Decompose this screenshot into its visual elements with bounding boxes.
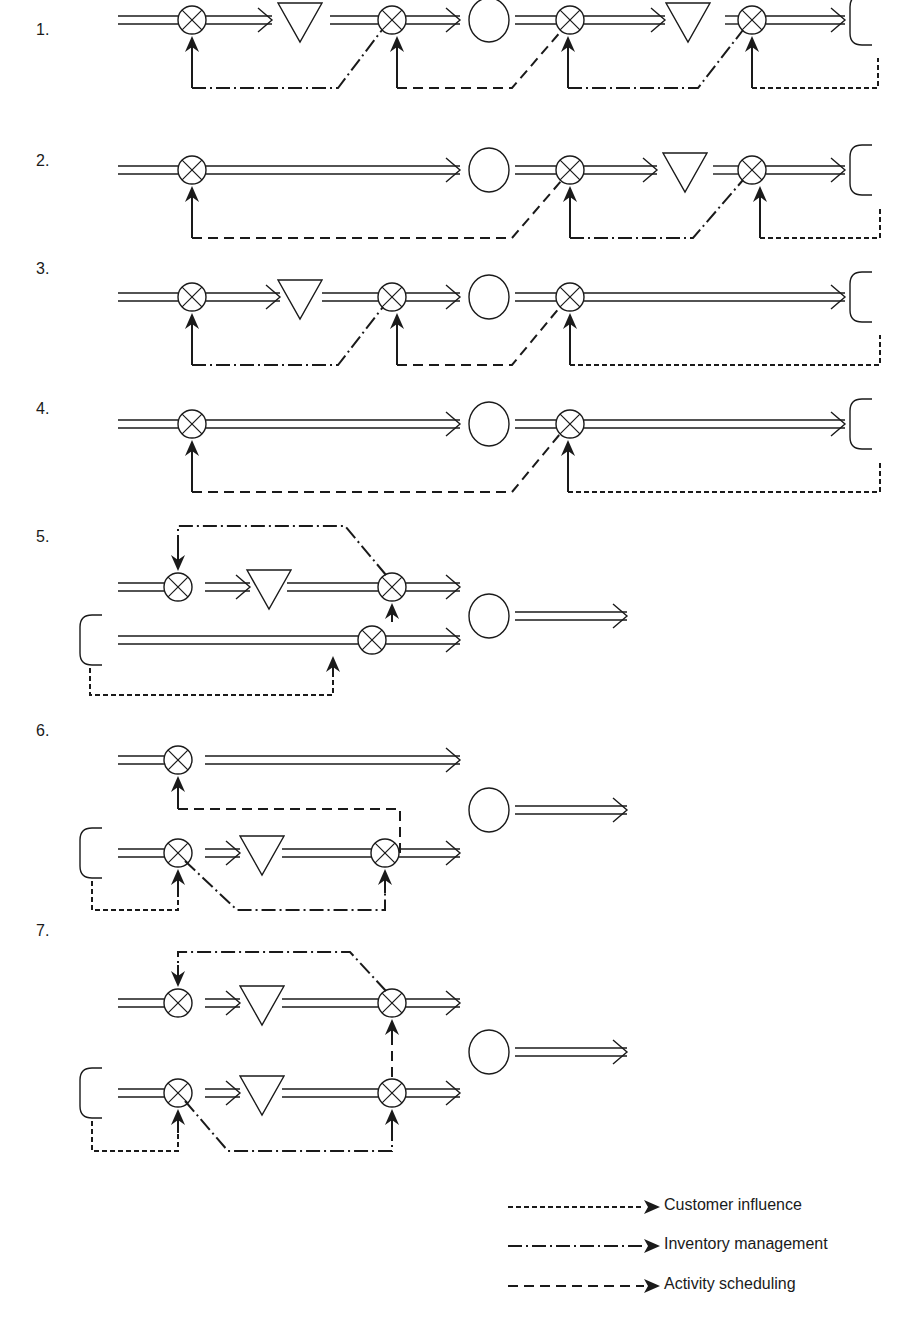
flow-arrowhead-icon — [446, 748, 460, 772]
source-sink-bracket-icon — [850, 0, 872, 45]
legend-label: Customer influence — [664, 1196, 802, 1214]
row-number-label: 1. — [36, 21, 49, 39]
legend-item-customer — [508, 1200, 660, 1214]
activity-circle-icon — [469, 402, 509, 446]
signal-line-customer — [568, 462, 880, 492]
flow-arrowhead-icon — [831, 158, 845, 182]
inventory-triangle-icon — [240, 986, 284, 1025]
source-sink-bracket-icon — [850, 145, 872, 195]
control-point-icon — [556, 6, 584, 34]
control-point-icon — [178, 156, 206, 184]
control-point-icon — [358, 626, 386, 654]
control-point-icon — [378, 1079, 406, 1107]
flow-arrowhead-icon — [446, 841, 460, 865]
flow-arrowhead-icon — [226, 991, 240, 1015]
control-point-icon — [164, 989, 192, 1017]
signal-line-activity — [178, 795, 400, 853]
flow-arrowhead-icon — [446, 628, 460, 652]
control-point-icon — [378, 989, 406, 1017]
control-point-icon — [178, 410, 206, 438]
row-number-label: 2. — [36, 152, 49, 170]
signal-line-inventory — [192, 307, 383, 365]
control-point-icon — [378, 573, 406, 601]
flow-arrowhead-icon — [226, 1081, 240, 1105]
arrow-right-icon — [644, 1200, 660, 1214]
activity-circle-icon — [469, 788, 509, 832]
legend-label: Inventory management — [664, 1235, 828, 1253]
diagram-row-2 — [118, 145, 880, 238]
signal-line-inventory — [178, 526, 386, 575]
flow-diagram — [0, 0, 915, 1329]
flow-arrowhead-icon — [266, 285, 280, 309]
activity-circle-icon — [469, 1030, 509, 1074]
activity-circle-icon — [469, 594, 509, 638]
flow-arrowhead-icon — [258, 8, 272, 32]
signal-line-inventory — [185, 1101, 392, 1151]
signal-line-customer — [90, 662, 333, 695]
control-point-icon — [164, 746, 192, 774]
diagram-row-3 — [118, 272, 880, 365]
inventory-triangle-icon — [663, 153, 707, 192]
flow-arrowhead-icon — [446, 285, 460, 309]
flow-arrowhead-icon — [446, 158, 460, 182]
activity-circle-icon — [469, 148, 509, 192]
signal-line-activity — [192, 434, 560, 492]
inventory-triangle-icon — [278, 280, 322, 319]
row-number-label: 6. — [36, 722, 49, 740]
source-sink-bracket-icon — [80, 615, 102, 665]
inventory-triangle-icon — [247, 570, 291, 609]
source-sink-bracket-icon — [80, 1068, 102, 1118]
signal-line-customer — [760, 208, 880, 238]
row-number-label: 5. — [36, 528, 49, 546]
control-point-icon — [178, 6, 206, 34]
legend-item-activity — [508, 1279, 660, 1293]
control-point-icon — [178, 283, 206, 311]
inventory-triangle-icon — [240, 1076, 284, 1115]
legend-label: Activity scheduling — [664, 1275, 796, 1293]
flow-arrowhead-icon — [831, 412, 845, 436]
row-number-label: 4. — [36, 400, 49, 418]
inventory-triangle-icon — [278, 3, 322, 42]
legend-item-inventory — [508, 1239, 660, 1253]
flow-arrowhead-icon — [651, 8, 665, 32]
row-number-label: 7. — [36, 922, 49, 940]
diagram-row-1 — [118, 0, 878, 88]
flow-arrowhead-icon — [613, 1040, 627, 1064]
diagram-row-6 — [80, 746, 627, 910]
arrow-right-icon — [644, 1239, 660, 1253]
flow-arrowhead-icon — [831, 285, 845, 309]
arrow-right-icon — [644, 1279, 660, 1293]
flow-arrowhead-icon — [643, 158, 657, 182]
signal-line-inventory — [570, 180, 743, 238]
flow-arrowhead-icon — [446, 412, 460, 436]
signal-line-inventory — [192, 30, 382, 88]
activity-circle-icon — [469, 275, 509, 319]
signal-line-customer — [92, 1121, 178, 1151]
control-point-icon — [371, 839, 399, 867]
source-sink-bracket-icon — [850, 272, 872, 322]
control-point-icon — [556, 156, 584, 184]
inventory-triangle-icon — [666, 3, 710, 42]
signal-line-customer — [752, 58, 878, 88]
source-sink-bracket-icon — [80, 828, 102, 878]
signal-line-customer — [92, 881, 178, 910]
control-point-icon — [556, 410, 584, 438]
flow-arrowhead-icon — [613, 604, 627, 628]
legend — [508, 1200, 660, 1293]
signal-line-inventory — [185, 861, 385, 910]
signal-line-customer — [570, 335, 880, 365]
flow-arrowhead-icon — [236, 575, 250, 599]
flow-arrowhead-icon — [831, 8, 845, 32]
signal-line-inventory — [178, 952, 386, 991]
row-number-label: 3. — [36, 260, 49, 278]
control-point-icon — [164, 573, 192, 601]
flow-arrowhead-icon — [446, 575, 460, 599]
inventory-triangle-icon — [240, 836, 284, 875]
flow-arrowhead-icon — [226, 841, 240, 865]
source-sink-bracket-icon — [850, 399, 872, 449]
activity-circle-icon — [469, 0, 509, 42]
flow-arrowhead-icon — [446, 991, 460, 1015]
flow-arrowhead-icon — [613, 798, 627, 822]
flow-arrowhead-icon — [446, 1081, 460, 1105]
signal-line-inventory — [568, 30, 743, 88]
